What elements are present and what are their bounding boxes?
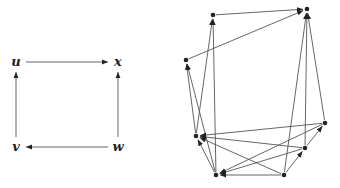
right-graph	[184, 7, 328, 178]
edge-E-A	[213, 19, 216, 172]
node-label-v: v	[12, 139, 20, 154]
node-label-u: u	[11, 54, 20, 69]
node-H	[323, 121, 328, 126]
edge-H-B	[308, 13, 325, 120]
node-G	[303, 146, 308, 151]
edge-D-A	[196, 19, 212, 133]
node-label-x: x	[113, 54, 122, 69]
node-D	[194, 134, 199, 139]
edge-G-E	[220, 149, 302, 174]
edge-A-B	[216, 9, 303, 15]
left-graph: uxvw	[11, 54, 124, 154]
edge-H-D	[200, 123, 322, 135]
edge-E-C	[187, 64, 215, 172]
node-label-w: w	[112, 139, 124, 154]
edge-G-H	[307, 126, 323, 146]
edge-D-C	[187, 64, 196, 133]
edge-F-G	[286, 151, 303, 172]
edge-C-B	[189, 11, 304, 59]
diagram-canvas: uxvw	[0, 0, 340, 188]
node-F	[282, 173, 287, 178]
node-A	[211, 13, 216, 18]
node-B	[305, 7, 310, 12]
edge-F-D	[200, 138, 282, 174]
node-C	[184, 58, 189, 63]
edge-E-D	[198, 140, 215, 173]
node-E	[214, 173, 219, 178]
